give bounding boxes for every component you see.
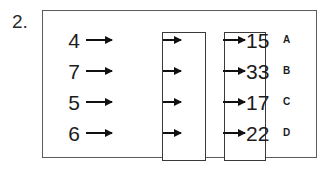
arrow-machine1-to-machine2-icon [163,70,181,72]
arrow-machine2-to-output-icon [223,39,245,41]
arrow-input-to-machine1-icon [86,70,112,72]
output-value: 33 [246,61,276,82]
question-number: 2. [12,12,28,31]
output-letter-label: D [283,128,290,138]
input-value: 6 [60,123,80,144]
input-value: 7 [60,61,80,82]
output-letter-label: C [283,97,290,107]
output-value: 15 [246,30,276,51]
arrow-machine1-to-machine2-icon [163,39,181,41]
output-letter-label: B [283,66,290,76]
output-value: 22 [246,123,276,144]
function-machine-box-1 [162,32,206,161]
input-value: 5 [60,92,80,113]
input-value: 4 [60,30,80,51]
arrow-machine2-to-output-icon [223,70,245,72]
arrow-machine2-to-output-icon [223,101,245,103]
worksheet-figure: 2. 4 15 A 7 33 B 5 17 C 6 22 D [0,0,331,171]
arrow-input-to-machine1-icon [86,39,112,41]
arrow-input-to-machine1-icon [86,132,112,134]
output-letter-label: A [283,35,290,45]
arrow-machine1-to-machine2-icon [163,132,181,134]
arrow-machine1-to-machine2-icon [163,101,181,103]
arrow-input-to-machine1-icon [86,101,112,103]
arrow-machine2-to-output-icon [223,132,245,134]
output-value: 17 [246,92,276,113]
